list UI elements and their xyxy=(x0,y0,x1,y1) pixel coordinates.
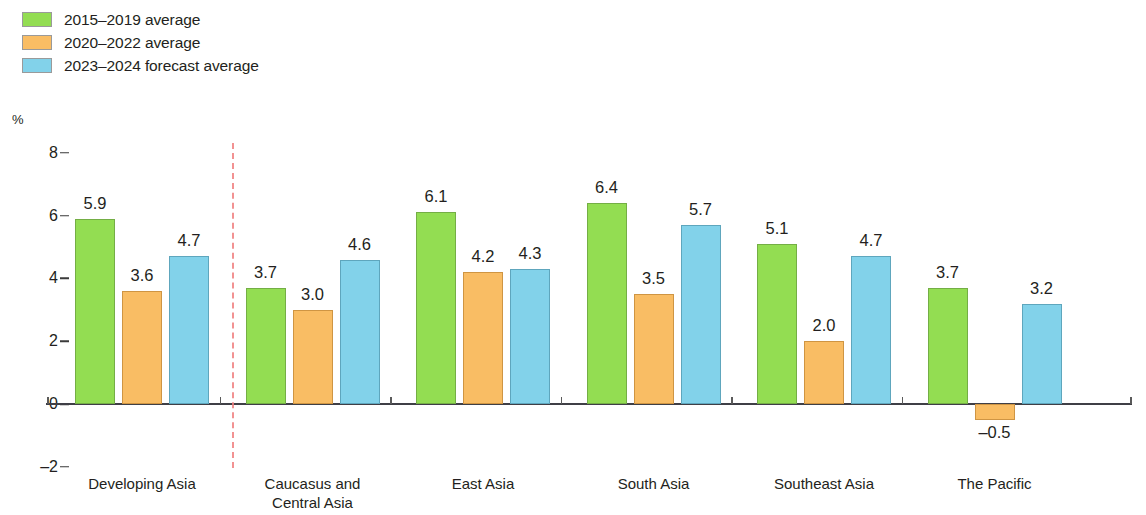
bar[interactable] xyxy=(1022,304,1062,404)
bar[interactable] xyxy=(293,310,333,404)
bar[interactable] xyxy=(928,288,968,404)
bar-value-label: 4.7 xyxy=(860,231,883,250)
bar-value-label: 2.0 xyxy=(813,316,836,335)
bar-value-label: 3.7 xyxy=(254,263,277,282)
bar-value-label: 4.6 xyxy=(348,235,371,254)
bar-chart: 2015–2019 average2020–2022 average2023–2… xyxy=(0,0,1146,515)
y-axis-tick-mark xyxy=(60,278,69,280)
x-axis-group-tick xyxy=(390,397,392,404)
x-axis-category-label: South Asia xyxy=(618,474,690,493)
y-axis-tick-label: 4 xyxy=(0,269,58,287)
y-axis-tick-mark xyxy=(60,215,69,217)
x-axis-group-tick xyxy=(561,397,563,404)
x-axis-group-tick xyxy=(902,397,904,404)
bar-value-label: 6.1 xyxy=(425,187,448,206)
x-axis-group-tick xyxy=(220,397,222,404)
bar[interactable] xyxy=(416,212,456,404)
bar[interactable] xyxy=(122,291,162,404)
bar-value-label: 3.2 xyxy=(1030,279,1053,298)
y-axis-tick-label: 2 xyxy=(0,332,58,350)
bar[interactable] xyxy=(851,256,891,404)
x-axis-category-label: East Asia xyxy=(452,474,515,493)
bar[interactable] xyxy=(757,244,797,404)
bar-value-label: 3.6 xyxy=(131,266,154,285)
y-axis-tick-label: 8 xyxy=(0,144,58,162)
x-axis-category-label: Southeast Asia xyxy=(774,474,874,493)
y-axis-tick-mark xyxy=(60,466,69,468)
bar[interactable] xyxy=(75,219,115,404)
bar[interactable] xyxy=(246,288,286,404)
x-axis-category-label: The Pacific xyxy=(957,474,1031,493)
bar-value-label: 3.5 xyxy=(642,269,665,288)
y-axis-tick-mark xyxy=(60,340,69,342)
y-axis-tick-label: 6 xyxy=(0,207,58,225)
bar-value-label: 3.7 xyxy=(936,263,959,282)
bar[interactable] xyxy=(975,404,1015,420)
x-axis-category-label: Caucasus and Central Asia xyxy=(265,474,361,512)
bar-value-label: 5.9 xyxy=(84,194,107,213)
bar[interactable] xyxy=(340,260,380,404)
bar[interactable] xyxy=(587,203,627,404)
bar[interactable] xyxy=(634,294,674,404)
x-axis-group-tick xyxy=(731,397,733,404)
bar-value-label: 4.2 xyxy=(472,247,495,266)
y-axis-tick-mark xyxy=(60,152,69,154)
bar-value-label: 5.7 xyxy=(689,200,712,219)
y-axis-tick-label: –2 xyxy=(0,458,58,476)
bar-value-label: 4.7 xyxy=(178,231,201,250)
bar[interactable] xyxy=(804,341,844,404)
x-axis-end-tick xyxy=(1130,397,1132,404)
bar[interactable] xyxy=(169,256,209,404)
x-axis-start-tick xyxy=(47,397,49,404)
bar-value-label: 3.0 xyxy=(301,285,324,304)
bar-value-label: 6.4 xyxy=(595,178,618,197)
plot-area: 86420–25.93.64.7Developing Asia3.73.04.6… xyxy=(0,0,1146,515)
x-axis-category-label: Developing Asia xyxy=(88,474,196,493)
bar-value-label: 4.3 xyxy=(519,244,542,263)
group-separator-line xyxy=(232,143,234,468)
bar[interactable] xyxy=(681,225,721,404)
bar[interactable] xyxy=(463,272,503,404)
bar-value-label: 5.1 xyxy=(766,219,789,238)
bar[interactable] xyxy=(510,269,550,404)
bar-value-label: –0.5 xyxy=(978,423,1010,442)
